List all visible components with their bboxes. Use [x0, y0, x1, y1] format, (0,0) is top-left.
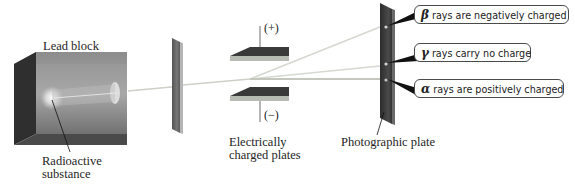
beam-undeflected [183, 79, 250, 85]
lead-block-label: Lead block [43, 39, 99, 53]
photographic-plate [380, 3, 395, 125]
negative-plate [230, 87, 289, 122]
alpha-callout-text: rays are positively charged [433, 84, 563, 95]
gamma-symbol: γ [421, 46, 429, 60]
alpha-symbol: α [421, 82, 430, 96]
slit-plate [172, 38, 183, 134]
negative-terminal-label: (−) [264, 108, 279, 123]
radioactive-substance-label-line1: Radioactive [42, 154, 102, 168]
alpha-callout: αrays are positively charged [414, 79, 564, 98]
gamma-ray [250, 66, 380, 79]
gamma-callout-text: rays carry no charge [432, 48, 531, 59]
radiation-deflection-diagram: Lead block Radioactive substance (+) (−)… [0, 0, 575, 184]
lead-block-side [14, 52, 36, 145]
beta-callout-text: rays are negatively charged [432, 10, 567, 21]
beta-symbol: β [421, 8, 429, 22]
radioactive-substance-label-line2: substance [42, 167, 91, 181]
gamma-callout: γrays carry no charge [414, 43, 531, 62]
photographic-plate-label: Photographic plate [341, 135, 435, 149]
positive-terminal-label: (+) [264, 21, 279, 36]
lead-block [14, 52, 127, 145]
charged-plates-label-line1: Electrically [229, 135, 287, 149]
positive-plate [230, 26, 289, 61]
beta-callout: βrays are negatively charged [414, 5, 569, 24]
charged-plates-label-line2: charged plates [229, 148, 301, 162]
